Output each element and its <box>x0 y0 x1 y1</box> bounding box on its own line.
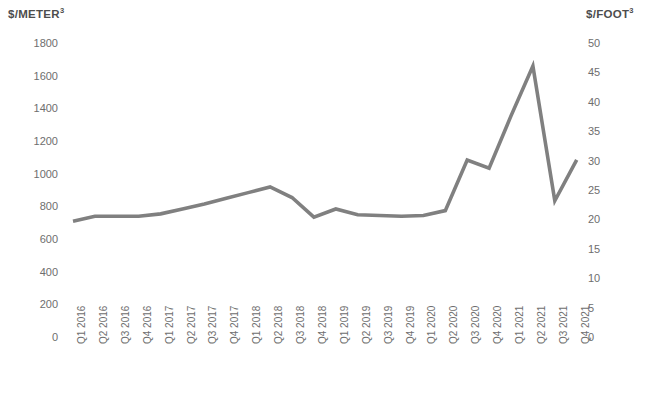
left-axis-tick-1400: 1400 <box>14 103 58 114</box>
left-axis-tick-1800: 1800 <box>14 38 58 49</box>
data-series-line <box>73 66 577 221</box>
x-axis-tick-q2-2019: Q2 2019 <box>362 306 372 344</box>
x-axis-tick-q4-2021: Q4 2021 <box>581 306 591 344</box>
left-axis-tick-1000: 1000 <box>14 169 58 180</box>
right-axis-tick-10: 10 <box>588 273 632 284</box>
right-axis-tick-50: 50 <box>588 38 632 49</box>
x-axis-tick-q2-2016: Q2 2016 <box>99 306 109 344</box>
left-axis-tick-800: 800 <box>14 201 58 212</box>
x-axis-tick-q1-2016: Q1 2016 <box>77 306 87 344</box>
right-axis-unit-label: $/FOOT3 <box>586 8 634 20</box>
right-axis-tick-25: 25 <box>588 185 632 196</box>
right-axis-tick-0: 0 <box>588 332 632 343</box>
right-axis-tick-35: 35 <box>588 126 632 137</box>
right-axis-tick-5: 5 <box>588 303 632 314</box>
right-axis-tick-20: 20 <box>588 214 632 225</box>
left-axis-unit-text: $/METER3 <box>8 8 64 20</box>
left-axis-unit-label: $/METER3 <box>8 8 64 20</box>
chart-container: $/METER3 $/FOOT3 18001600140012001000800… <box>0 0 656 410</box>
x-axis-tick-q1-2020: Q1 2020 <box>427 306 437 344</box>
x-axis-tick-q3-2020: Q3 2020 <box>471 306 481 344</box>
left-axis-tick-400: 400 <box>14 267 58 278</box>
x-axis-tick-q4-2019: Q4 2019 <box>406 306 416 344</box>
x-axis-tick-q3-2019: Q3 2019 <box>384 306 394 344</box>
right-axis-tick-45: 45 <box>588 67 632 78</box>
x-axis-tick-q4-2017: Q4 2017 <box>230 306 240 344</box>
x-axis-tick-q2-2021: Q2 2021 <box>537 306 547 344</box>
x-axis-tick-q2-2018: Q2 2018 <box>274 306 284 344</box>
x-axis-tick-q1-2021: Q1 2021 <box>515 306 525 344</box>
x-axis-tick-q1-2017: Q1 2017 <box>165 306 175 344</box>
x-axis-tick-q1-2018: Q1 2018 <box>252 306 262 344</box>
right-axis-tick-30: 30 <box>588 156 632 167</box>
right-axis-tick-40: 40 <box>588 97 632 108</box>
x-axis-tick-q4-2018: Q4 2018 <box>318 306 328 344</box>
left-axis-tick-1200: 1200 <box>14 136 58 147</box>
x-axis-tick-q3-2017: Q3 2017 <box>208 306 218 344</box>
left-axis-tick-1600: 1600 <box>14 71 58 82</box>
x-axis-tick-q4-2020: Q4 2020 <box>493 306 503 344</box>
x-axis-tick-q1-2019: Q1 2019 <box>340 306 350 344</box>
right-axis-unit-text: $/FOOT3 <box>586 8 634 20</box>
x-axis-tick-q4-2016: Q4 2016 <box>143 306 153 344</box>
x-axis-tick-q3-2016: Q3 2016 <box>121 306 131 344</box>
x-axis-tick-q2-2020: Q2 2020 <box>449 306 459 344</box>
left-axis-tick-200: 200 <box>14 299 58 310</box>
x-axis-tick-q3-2018: Q3 2018 <box>296 306 306 344</box>
x-axis-tick-q2-2017: Q2 2017 <box>187 306 197 344</box>
right-axis-tick-15: 15 <box>588 244 632 255</box>
left-axis-tick-0: 0 <box>14 332 58 343</box>
left-axis-tick-600: 600 <box>14 234 58 245</box>
x-axis-tick-q3-2021: Q3 2021 <box>559 306 569 344</box>
plot-area <box>0 0 656 410</box>
